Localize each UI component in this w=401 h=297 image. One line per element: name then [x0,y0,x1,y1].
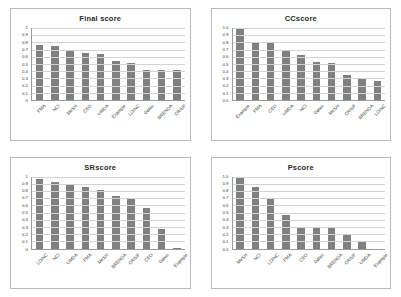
y-axis: 1.00.90.80.70.60.50.40.30.20.10.0 [212,28,231,101]
chart-panel-final-score: Final score 10.90.80.70.60.50.40.30.20.1… [10,8,191,141]
y-tick-label: 0.9 [22,33,28,37]
bar [328,228,336,248]
x-label-cell: BRENDA [154,102,169,144]
chart-panel-srscore: SRscore 10.90.80.70.60.50.40.30.20.10 LO… [10,157,191,290]
gridline [32,234,185,235]
gridline [233,205,386,206]
x-label-cell: BRENDA [324,251,339,293]
x-label-cell: CEO [77,102,92,144]
x-tick-label: NCI [253,253,262,262]
y-tick-label: 0.0 [222,247,228,251]
plot-area [232,28,386,101]
x-label-cell: LOINC [123,102,138,144]
bar [297,228,305,248]
gridline [32,220,185,221]
y-tick-label: 0.7 [222,196,228,200]
gridline [32,198,185,199]
x-tick-label: NCI [299,104,308,113]
y-tick-label: 0.2 [222,233,228,237]
x-label-cell: FMA [278,251,293,293]
x-label-cell: NCI [293,102,308,144]
y-tick-label: 0.8 [222,40,228,44]
y-tick-label: 0.8 [22,40,28,44]
y-tick-label: 0.2 [22,233,28,237]
y-tick-label: 0.1 [22,240,28,244]
x-tick-label: FMA [83,253,93,263]
bar [36,179,44,248]
x-label-cell: UMDA [354,251,369,293]
y-axis: 10.90.80.70.60.50.40.30.20.10 [11,177,30,250]
gridline [233,86,386,87]
x-tick-label: NCI [52,104,61,113]
y-tick-label: 0.1 [222,91,228,95]
x-label-cell: Example [169,251,184,293]
gridline [32,42,185,43]
x-label-cell: Galen [138,102,153,144]
y-tick-label: 0.1 [222,240,228,244]
x-label-cell: MeSH [92,251,107,293]
y-tick-label: 0.2 [22,84,28,88]
bar [374,81,382,100]
gridline [233,184,386,185]
y-tick-label: 0.6 [222,203,228,207]
gridline [233,220,386,221]
gridline [233,78,386,79]
x-label-cell: CRISP [339,251,354,293]
gridline [233,42,386,43]
gridline [32,71,185,72]
x-label-cell: FMA [77,251,92,293]
y-tick-label: 0.0 [222,99,228,103]
gridline [233,50,386,51]
x-label-cell: NCI [46,102,61,144]
y-tick-label: 1.0 [222,174,228,178]
plot-frame [31,28,185,101]
x-label-cell: NCI [247,251,262,293]
bar [127,63,135,100]
x-label-cell: UMDA [62,251,77,293]
x-label-cell: Example [232,102,247,144]
y-tick-label: 0.5 [222,62,228,66]
x-tick-label: CRISP [174,104,187,117]
bar [173,248,181,249]
gridline [233,93,386,94]
bar [252,187,260,249]
gridline [32,28,185,29]
x-label-cell: Example [108,102,123,144]
gridline [32,184,185,185]
x-label-cell: BRENDA [354,102,369,144]
gridline [233,191,386,192]
y-tick-label: 0.9 [22,182,28,186]
chart-title: SRscore [11,163,190,172]
gridline [32,35,185,36]
bar [112,61,120,100]
y-tick-label: 0.3 [22,225,28,229]
gridline [32,227,185,228]
x-tick-label: FMA [283,253,293,263]
x-label-cell: MeSH [62,102,77,144]
y-tick-label: 0.7 [22,48,28,52]
y-tick-label: 0.1 [22,91,28,95]
gridline [32,78,185,79]
chart-grid: Final score 10.90.80.70.60.50.40.30.20.1… [0,0,401,297]
x-label-cell: NCI [46,251,61,293]
x-label-cell: Example [370,251,385,293]
x-label-cell: CRISP [123,251,138,293]
bar [313,228,321,248]
gridline [233,28,386,29]
y-tick-label: 0.8 [222,189,228,193]
gridline [233,177,386,178]
x-label-cell: FMA [31,102,46,144]
plot-frame [232,28,386,101]
y-tick-label: 0.3 [22,77,28,81]
bar [158,229,166,248]
y-tick-label: 0.5 [22,211,28,215]
gridline [32,50,185,51]
gridline [233,213,386,214]
chart-title: Final score [11,14,190,23]
y-tick-label: 0.7 [22,196,28,200]
y-axis: 10.90.80.70.60.50.40.30.20.10 [11,28,30,101]
y-tick-label: 1 [26,26,28,30]
y-tick-label: 1 [26,174,28,178]
x-label-cell: LOINC [370,102,385,144]
x-label-cell: MeSH [232,251,247,293]
